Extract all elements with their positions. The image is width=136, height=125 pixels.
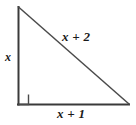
right-angle-marker-icon: [19, 95, 29, 105]
label-horizontal-leg: x + 1: [57, 107, 85, 120]
label-hypotenuse: x + 2: [62, 30, 90, 43]
label-vertical-leg: x: [5, 51, 11, 63]
hypotenuse-line: [19, 7, 130, 104]
triangle-figure: x x + 2 x + 1: [0, 0, 136, 125]
